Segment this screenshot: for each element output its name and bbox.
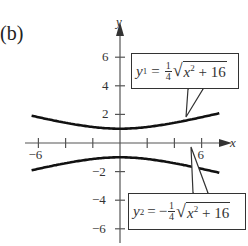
x-tick-label: −6 bbox=[28, 148, 42, 161]
y-tick-label: −2 bbox=[92, 165, 106, 178]
y-tick-label: 4 bbox=[102, 79, 109, 92]
eq-y2-fraction: 1 4 bbox=[168, 201, 175, 222]
eq-y2-sub: 2 bbox=[140, 207, 145, 217]
x-axis-label: x bbox=[230, 136, 236, 149]
eq-y2-den: 4 bbox=[169, 212, 174, 222]
callout-pointers bbox=[186, 89, 208, 193]
eq-y2-sqrt: √ x2 + 16 bbox=[176, 202, 230, 222]
equation-box-y1: y1 = 1 4 √ x2 + 16 bbox=[131, 53, 239, 89]
eq-y1-fraction: 1 4 bbox=[165, 61, 172, 82]
eq-y1-lhs: y bbox=[136, 63, 143, 80]
eq-y2-radicand: x2 + 16 bbox=[186, 202, 230, 222]
eq-y1-sub: 1 bbox=[143, 66, 148, 76]
eq-y1-equals: = bbox=[151, 63, 159, 80]
eq-y2-lhs: y bbox=[133, 203, 140, 220]
curve-y1 bbox=[32, 113, 220, 129]
callout-pointer-y1 bbox=[186, 89, 203, 117]
x-tick-label: 6 bbox=[198, 148, 205, 161]
eq-y2-var: x bbox=[187, 205, 194, 221]
equation-box-y2: y2 = − 1 4 √ x2 + 16 bbox=[128, 193, 246, 230]
y-tick-label: 6 bbox=[102, 50, 109, 63]
y-tick-label: −6 bbox=[92, 222, 106, 235]
eq-y2-equals: = bbox=[147, 203, 155, 220]
eq-y2-rest: + 16 bbox=[198, 205, 229, 221]
eq-y1-rest: + 16 bbox=[195, 64, 226, 80]
sqrt-icon: √ bbox=[173, 61, 183, 81]
eq-y1-num: 1 bbox=[165, 61, 172, 72]
y-tick-label: −4 bbox=[92, 193, 106, 206]
eq-y1-den: 4 bbox=[166, 72, 171, 82]
eq-y2-sign: − bbox=[159, 203, 167, 220]
y-axis-label: y bbox=[116, 15, 122, 28]
eq-y1-radicand: x2 + 16 bbox=[183, 61, 227, 81]
y-tick-label: 2 bbox=[102, 107, 109, 120]
eq-y1-sqrt: √ x2 + 16 bbox=[173, 61, 227, 81]
sqrt-icon: √ bbox=[176, 202, 186, 222]
